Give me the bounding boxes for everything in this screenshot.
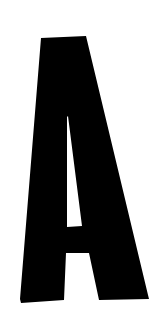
letter-a-shape (20, 36, 149, 303)
canvas: A (0, 0, 163, 318)
letter-a-glyph (0, 0, 163, 318)
